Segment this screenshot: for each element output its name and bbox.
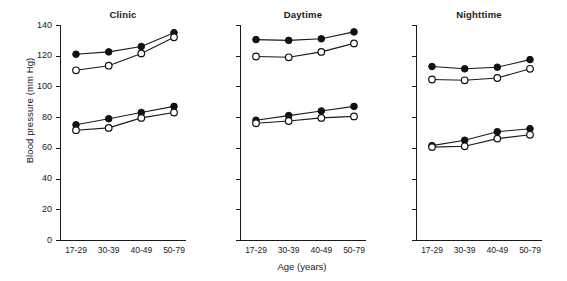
data-point-open [461,143,468,150]
x-axis-line [60,240,186,241]
data-point-filled [429,63,436,70]
data-point-open [527,132,534,139]
data-point-open [105,62,112,69]
data-point-open [351,113,358,120]
series-layer [60,25,186,240]
series-line [76,37,174,70]
y-axis-tick-label: 120 [28,51,52,60]
series-line [432,60,530,69]
panel-title: Daytime [228,9,378,20]
data-point-filled [318,36,325,43]
series-line [256,43,354,57]
y-axis-tick-label: 80 [28,113,52,122]
data-point-open [285,118,292,125]
series-line [432,135,530,147]
plot-area: 02040608010012014017-2930-3940-4950-79 [60,25,186,240]
series-line [432,69,530,81]
data-point-filled [351,103,358,110]
series-line [256,116,354,123]
data-point-open [429,144,436,151]
data-point-open [429,76,436,83]
data-point-filled [105,115,112,122]
data-point-open [171,34,178,41]
panel-clinic: Clinic 02040608010012014017-2930-3940-49… [48,0,198,281]
data-point-open [138,115,145,122]
data-point-open [461,77,468,84]
data-point-filled [461,66,468,73]
data-point-filled [318,108,325,115]
data-point-open [527,66,534,73]
y-axis-tick [412,240,416,241]
y-axis-tick-label: 40 [28,174,52,183]
data-point-open [253,120,260,127]
data-point-filled [105,49,112,56]
panel-nighttime: Nighttime 17-2930-3940-4950-79 [404,0,554,281]
x-axis-line [240,240,366,241]
data-point-open [138,50,145,57]
data-point-filled [285,37,292,44]
y-axis-tick-label: 0 [28,236,52,245]
series-layer [240,25,366,240]
blood-pressure-figure: Blood pressure (mm Hg) Age (years) Clini… [0,0,567,281]
y-axis-tick-label: 60 [28,143,52,152]
series-line [76,33,174,55]
data-point-open [171,109,178,116]
data-point-open [253,53,260,60]
x-axis-tick-label: 50-79 [154,246,194,255]
data-point-open [318,49,325,56]
x-axis-line [416,240,542,241]
data-point-filled [494,128,501,135]
data-point-open [73,127,80,134]
data-point-open [105,125,112,132]
x-axis-tick-label: 50-79 [334,246,374,255]
data-point-filled [527,56,534,63]
series-layer [416,25,542,240]
data-point-filled [73,51,80,58]
y-axis-tick-label: 20 [28,205,52,214]
y-axis-tick-label: 140 [28,21,52,30]
series-line [256,106,354,120]
y-axis-tick [56,240,60,241]
data-point-filled [253,36,260,43]
x-axis-tick-label: 50-79 [510,246,550,255]
data-point-filled [138,43,145,50]
data-point-open [494,135,501,142]
data-point-open [494,75,501,82]
data-point-filled [494,64,501,71]
data-point-open [351,40,358,47]
data-point-filled [351,29,358,36]
plot-area: 17-2930-3940-4950-79 [416,25,542,240]
data-point-open [73,67,80,74]
data-point-open [285,54,292,61]
plot-area: 17-2930-3940-4950-79 [240,25,366,240]
y-axis-tick-label: 100 [28,82,52,91]
panel-daytime: Daytime 17-2930-3940-4950-79 [228,0,378,281]
panel-title: Nighttime [404,9,554,20]
series-line [76,106,174,124]
panel-title: Clinic [48,9,198,20]
y-axis-tick [236,240,240,241]
data-point-open [318,115,325,122]
series-line [432,129,530,146]
series-line [256,32,354,41]
